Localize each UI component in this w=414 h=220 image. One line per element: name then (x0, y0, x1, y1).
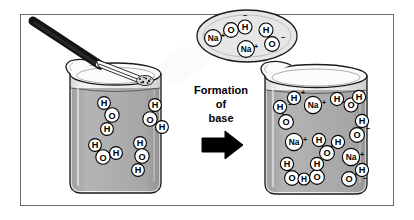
svg-text:H: H (359, 116, 366, 126)
bubble-hydroxide-ion-2: H O − (259, 23, 285, 51)
svg-text:H: H (277, 102, 284, 112)
svg-text:O: O (227, 25, 234, 35)
svg-text:H: H (335, 137, 342, 147)
right-sodium-ion-2: Na + (285, 133, 307, 150)
svg-text:H: H (135, 165, 142, 175)
bubble-sodium-ion-1: Na + (205, 30, 225, 47)
bubble-hydroxide-ion-1: O H − (224, 12, 252, 37)
svg-text:O: O (345, 174, 352, 184)
charge-minus: − (281, 34, 285, 41)
svg-text:O: O (138, 152, 145, 162)
charge-plus: + (301, 89, 305, 96)
svg-text:H: H (334, 94, 341, 104)
left-water-molecule-2: H O H (143, 99, 169, 134)
charge-minus: − (243, 12, 247, 19)
svg-text:H: H (159, 122, 166, 132)
svg-text:Na: Na (346, 152, 357, 162)
svg-text:H: H (359, 165, 366, 175)
svg-text:O: O (353, 130, 360, 140)
svg-text:H: H (101, 98, 108, 108)
svg-text:H: H (152, 100, 159, 110)
right-hydroxide-ion-4: H O (280, 157, 299, 185)
charge-minus: − (366, 125, 370, 132)
svg-text:H: H (263, 25, 270, 35)
svg-text:Na: Na (241, 44, 252, 54)
right-hydroxide-ion-5: O H − (342, 163, 369, 186)
left-water-molecule-4: H O H (132, 137, 150, 177)
svg-text:Na: Na (308, 100, 319, 110)
right-hydroxide-ion-2: H − O (273, 100, 293, 129)
particles-layer: H O H H O H H O H (0, 0, 414, 220)
charge-minus: − (363, 175, 367, 182)
right-water-molecule-2: H O H − (298, 157, 329, 185)
svg-text:O: O (288, 173, 295, 183)
svg-text:O: O (268, 39, 275, 49)
svg-text:H: H (356, 92, 363, 102)
svg-text:H: H (113, 148, 120, 158)
svg-text:H: H (104, 124, 111, 134)
left-water-molecule-1: H O H (98, 97, 120, 136)
bubble-sodium-ion-2: Na + (238, 41, 258, 58)
svg-text:H: H (137, 138, 144, 148)
svg-text:H: H (314, 159, 321, 169)
svg-text:H: H (301, 175, 307, 184)
svg-text:O: O (99, 153, 106, 163)
svg-text:O: O (282, 117, 289, 127)
charge-plus: + (254, 43, 258, 50)
charge-plus: + (303, 136, 307, 143)
right-hydroxide-ion-1: H O H (330, 90, 365, 112)
svg-text:O: O (146, 115, 153, 125)
left-water-molecule-3: H O H (89, 139, 123, 165)
charge-minus: − (325, 157, 329, 164)
charge-minus: − (288, 101, 292, 108)
right-hydroxide-ion-3: H O − (350, 114, 370, 142)
charge-plus: + (322, 99, 326, 106)
svg-text:H: H (284, 159, 291, 169)
svg-text:O: O (313, 172, 320, 182)
svg-text:Na: Na (289, 137, 300, 147)
svg-text:O: O (347, 100, 354, 110)
svg-text:H: H (242, 22, 249, 32)
svg-text:O: O (108, 111, 115, 121)
svg-text:Na: Na (208, 33, 219, 43)
svg-text:H: H (92, 140, 99, 150)
charge-plus: + (360, 151, 364, 158)
right-sodium-ion-1: Na + (304, 96, 326, 113)
figure-canvas: Formation of base (0, 0, 414, 220)
svg-text:H: H (316, 135, 323, 145)
